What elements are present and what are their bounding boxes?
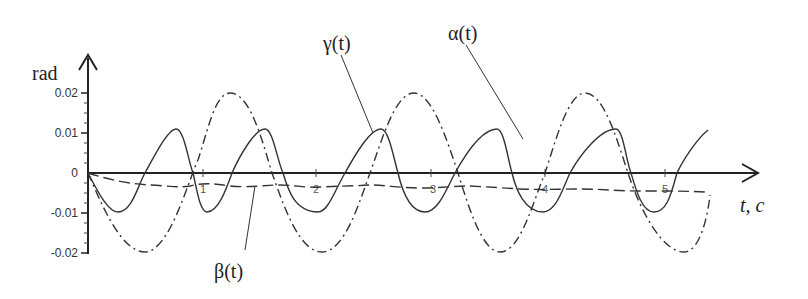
gamma-leader-line xyxy=(341,55,373,133)
y-axis-label: rad xyxy=(32,62,58,84)
chart-canvas: rad 0.02 0.01 0 -0.01 -0.02 1 2 3 4 5 t,… xyxy=(0,0,808,299)
x-axis-label: t, c xyxy=(740,194,765,216)
y-tick-label: 0.01 xyxy=(55,126,79,140)
y-tick-label: -0.01 xyxy=(51,206,79,220)
x-tick-label: 3 xyxy=(430,183,436,195)
alpha-curve xyxy=(88,129,708,212)
x-tick-label: 1 xyxy=(200,183,206,195)
y-tick-label: 0.02 xyxy=(55,86,79,100)
y-tick-label: 0 xyxy=(71,166,78,180)
alpha-leader-line xyxy=(466,45,523,139)
beta-leader-line xyxy=(245,186,255,250)
alpha-label: α(t) xyxy=(448,22,477,45)
x-tick-label: 5 xyxy=(662,183,668,195)
y-axis xyxy=(79,55,97,254)
gamma-label: γ(t) xyxy=(322,32,351,55)
y-tick-label: -0.02 xyxy=(51,246,79,260)
beta-label: β(t) xyxy=(214,260,243,283)
x-tick-label: 2 xyxy=(313,183,319,195)
x-axis xyxy=(88,164,758,182)
beta-curve xyxy=(88,173,708,196)
